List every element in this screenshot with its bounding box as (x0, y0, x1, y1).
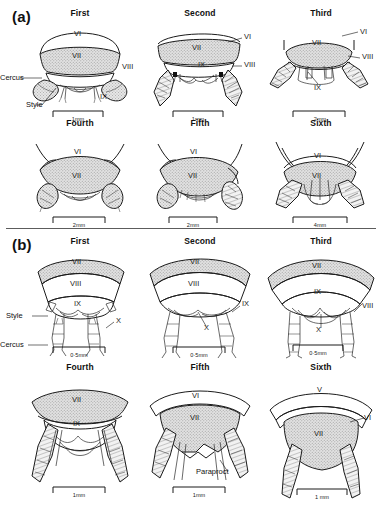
label-segment-vii: VII (72, 258, 81, 266)
subfigure-b-fifth: Fifth (140, 362, 260, 504)
scale-bar (170, 110, 230, 118)
panel-b-row-1: First (0, 236, 382, 358)
label-segment-v: V (317, 386, 322, 394)
panel-b: (b) First (0, 232, 382, 508)
label-segment-vii: VII (188, 172, 197, 180)
label-segment-vii: VII (190, 414, 199, 422)
leader-lines (336, 26, 366, 66)
leader-line-paraproct (198, 454, 238, 476)
subfigure-b-first: First (20, 236, 140, 358)
label-segment-vii: VII (312, 262, 321, 270)
label-segment-vi: VI (74, 30, 81, 38)
subfigure-title: Second (140, 8, 260, 18)
subfigure-title: Third (262, 8, 380, 18)
leader-line-vi (348, 410, 372, 428)
subfigure-b-second: Second (140, 236, 260, 358)
scale-bar (290, 110, 352, 118)
subfigure-title: Third (262, 236, 380, 246)
label-segment-vii: VII (190, 258, 199, 266)
subfigure-title: Sixth (262, 362, 380, 372)
label-segment-ix: IX (198, 61, 205, 69)
subfigure-a-first: First (20, 8, 140, 113)
drawing-a-fifth (140, 128, 260, 223)
label-segment-viii: VIII (70, 280, 81, 288)
label-segment-ix: IX (73, 420, 80, 428)
subfigure-a-fifth: Fifth VI (140, 118, 260, 223)
subfigure-title: Fourth (20, 362, 140, 372)
scale-bar (50, 110, 110, 118)
label-segment-vii: VII (72, 396, 81, 404)
label-segment-vi: VI (190, 148, 197, 156)
subfigure-title: First (20, 8, 140, 18)
scale-bar (294, 488, 354, 496)
panel-a-row-1: First (0, 8, 382, 113)
drawing-b-fifth (140, 372, 260, 504)
label-segment-vii: VII (72, 172, 81, 180)
leader-lines (192, 306, 252, 332)
label-segment-vii: VII (192, 44, 201, 52)
subfigure-a-second: Second (140, 8, 260, 113)
subfigure-b-third: Third (262, 236, 380, 358)
label-segment-vii: VII (314, 430, 323, 438)
scale-bar (166, 216, 224, 224)
leader-line-ix (306, 70, 330, 88)
label-segment-vii: VII (72, 52, 81, 60)
panel-a-row-2: Fourth (0, 118, 382, 223)
subfigure-title: Second (140, 236, 260, 246)
subfigure-title: First (20, 236, 140, 246)
subfigure-b-sixth: Sixth V VI (262, 362, 380, 504)
label-segment-vi: VI (192, 392, 199, 400)
label-segment-ix: IX (314, 288, 321, 296)
leader-lines (314, 310, 370, 332)
label-segment-vii: VII (312, 172, 321, 180)
scale-bar (170, 346, 232, 354)
subfigure-title: Sixth (262, 118, 380, 128)
scale-bar (50, 346, 112, 354)
panel-b-row-2: Fourth (0, 362, 382, 504)
label-segment-viii: VIII (362, 302, 373, 310)
scale-bar (290, 216, 354, 224)
scale-bar (170, 486, 232, 494)
leader-lines (224, 30, 250, 75)
subfigure-a-third: Third (262, 8, 380, 113)
scale-bar (290, 344, 350, 352)
label-segment-vi: VI (314, 152, 321, 160)
figure-plate: (a) First (0, 0, 382, 508)
label-segment-viii: VIII (188, 280, 199, 288)
subfigure-title: Fourth (20, 118, 140, 128)
subfigure-title: Fifth (140, 362, 260, 372)
scale-bar (50, 486, 112, 494)
subfigure-b-fourth: Fourth (20, 362, 140, 504)
subfigure-title: Fifth (140, 118, 260, 128)
panel-a: (a) First (0, 0, 382, 226)
subfigure-a-sixth: Sixth (262, 118, 380, 223)
subfigure-a-fourth: Fourth (20, 118, 140, 223)
drawing-b-fourth (20, 372, 140, 504)
leader-lines (0, 66, 138, 116)
scale-bar (50, 216, 112, 224)
label-segment-vi: VI (74, 148, 81, 156)
panel-divider (6, 228, 376, 229)
label-segment-vii: VII (312, 39, 321, 47)
